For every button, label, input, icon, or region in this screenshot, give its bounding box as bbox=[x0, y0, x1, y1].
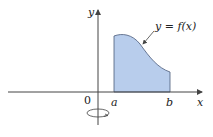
a-label: a bbox=[111, 96, 118, 109]
curve-label: y = f(x) bbox=[154, 20, 196, 33]
b-label: b bbox=[166, 96, 173, 109]
shaded-region bbox=[114, 35, 170, 92]
diagram: y y = f(x) 0 a b x bbox=[0, 0, 213, 137]
origin-label: 0 bbox=[84, 94, 91, 107]
x-axis-label: x bbox=[197, 96, 204, 109]
curve-pointer bbox=[143, 31, 154, 44]
y-axis-label: y bbox=[87, 6, 95, 19]
